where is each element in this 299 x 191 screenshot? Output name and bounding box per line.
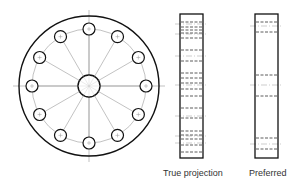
true-projection-outline	[180, 14, 203, 158]
preferred-outline	[255, 14, 278, 158]
caption-preferred: Preferred	[249, 168, 287, 178]
caption-true-projection: True projection	[163, 168, 223, 178]
technical-drawing	[0, 0, 299, 191]
